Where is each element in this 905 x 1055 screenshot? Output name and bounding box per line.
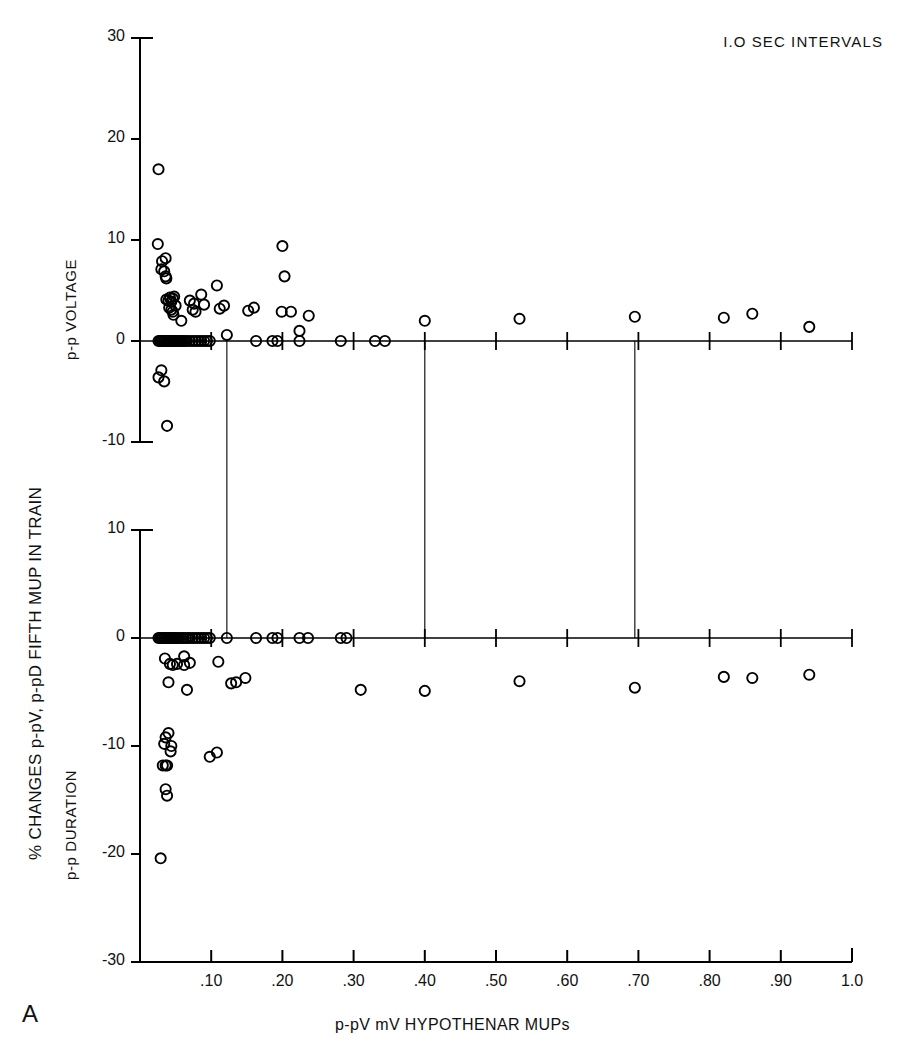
bottom-panel-title: p-p DURATION: [62, 770, 79, 880]
x-tick-label: .20: [252, 972, 312, 990]
y-tick-label: 10: [71, 519, 125, 537]
x-tick-label: .60: [537, 972, 597, 990]
x-tick-label: .10: [181, 972, 241, 990]
data-point: [182, 685, 192, 695]
data-point: [163, 677, 173, 687]
data-point: [304, 311, 314, 321]
bottom-panel-duration: [131, 530, 852, 962]
x-tick-label: .70: [608, 972, 668, 990]
data-point: [196, 289, 206, 299]
data-point: [747, 309, 757, 319]
y-tick-label: -30: [71, 951, 125, 969]
data-point: [719, 672, 729, 682]
scatter-plot-svg: [0, 0, 905, 1055]
data-point: [804, 670, 814, 680]
data-point: [747, 673, 757, 683]
x-tick-label: 1.0: [822, 972, 882, 990]
y-tick-label: -20: [71, 843, 125, 861]
y-tick-label: 20: [71, 128, 125, 146]
data-point: [804, 322, 814, 332]
data-point: [356, 685, 366, 695]
data-point: [153, 239, 163, 249]
data-point: [277, 241, 287, 251]
data-point: [176, 316, 186, 326]
data-point: [514, 676, 524, 686]
y-tick-label: -10: [71, 735, 125, 753]
data-point: [420, 686, 430, 696]
data-point: [240, 673, 250, 683]
data-point: [153, 164, 163, 174]
x-tick-label: .80: [680, 972, 740, 990]
data-point: [294, 326, 304, 336]
data-point: [212, 280, 222, 290]
y-tick-label: 30: [71, 27, 125, 45]
y-tick-label: 10: [71, 229, 125, 247]
interval-annotation: I.O SEC INTERVALS: [723, 33, 883, 50]
y-tick-label: 0: [71, 330, 125, 348]
data-point: [279, 271, 289, 281]
data-point: [630, 683, 640, 693]
x-tick-label: .90: [751, 972, 811, 990]
connector-drop-lines: [227, 341, 635, 638]
data-point: [213, 657, 223, 667]
x-tick-label: .50: [466, 972, 526, 990]
y-tick-label: -10: [71, 431, 125, 449]
y-tick-label: 0: [71, 627, 125, 645]
data-point: [630, 312, 640, 322]
data-point: [420, 316, 430, 326]
data-point: [514, 314, 524, 324]
figure-container: I.O SEC INTERVALS A p-pV mV HYPOTHENAR M…: [0, 0, 905, 1055]
x-tick-label: .40: [395, 972, 455, 990]
x-axis-title: p-pV mV HYPOTHENAR MUPs: [0, 1016, 905, 1034]
data-point: [222, 330, 232, 340]
top-panel-voltage: [131, 38, 852, 442]
y-axis-title: % CHANGES p-pV, p-pD FIFTH MUP IN TRAIN: [26, 487, 46, 860]
x-tick-label: .30: [324, 972, 384, 990]
data-point: [162, 421, 172, 431]
data-point: [162, 791, 172, 801]
data-point: [719, 313, 729, 323]
data-point: [199, 300, 209, 310]
data-point: [156, 853, 166, 863]
